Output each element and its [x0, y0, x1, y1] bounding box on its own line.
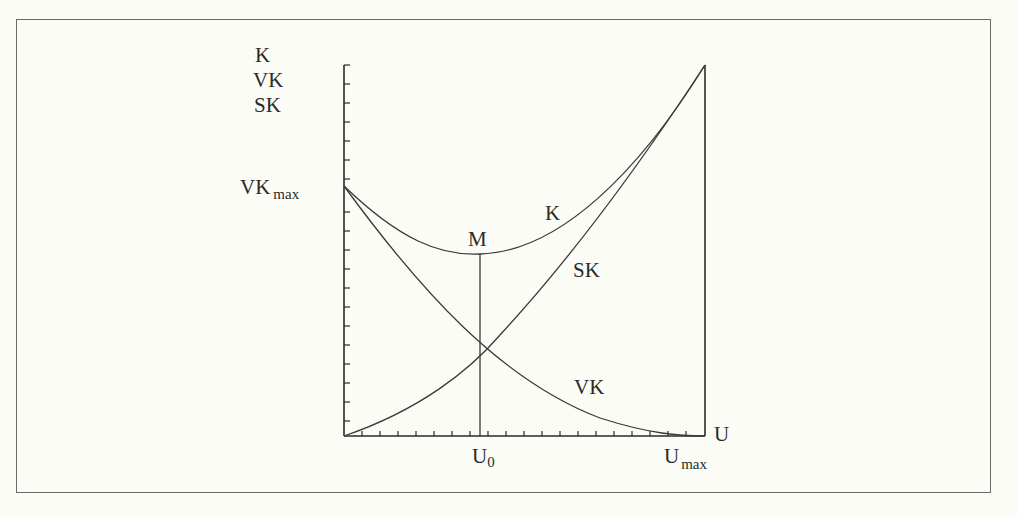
- u0-label: U0: [472, 444, 495, 470]
- umax-sub: max: [681, 456, 707, 472]
- point-m-label: M: [468, 227, 487, 251]
- y-axis-ticks: [344, 65, 350, 421]
- vkmax-main: VK: [240, 175, 270, 199]
- y-axis-label-sk: SK: [254, 93, 281, 117]
- umax-label: Umax: [664, 444, 707, 472]
- k-curve-label: K: [545, 201, 560, 225]
- cost-diagram: K VK SK VKmax M K SK VK U0 Umax U: [0, 0, 1017, 517]
- u0-sub: 0: [487, 454, 495, 470]
- x-axis-label-u: U: [714, 422, 729, 446]
- umax-main: U: [664, 444, 679, 468]
- y-axis-label-vk: VK: [253, 68, 283, 92]
- k-curve: [344, 65, 705, 254]
- vkmax-sub: max: [273, 186, 299, 202]
- vk-curve: [344, 186, 705, 436]
- y-axis-label-k: K: [255, 43, 270, 67]
- u0-main: U: [472, 444, 487, 468]
- vk-curve-label: VK: [574, 375, 604, 399]
- vkmax-label: VKmax: [240, 175, 300, 202]
- sk-curve: [344, 65, 705, 436]
- sk-curve-label: SK: [573, 258, 600, 282]
